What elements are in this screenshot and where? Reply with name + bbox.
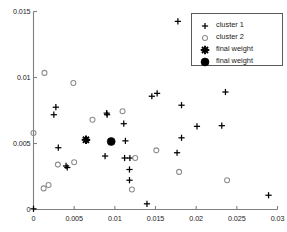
legend-label: final weight (216, 56, 253, 65)
x-tick-label: 0.01 (108, 214, 122, 223)
scatter-plot-figure: 00.0050.010.0150.020.0250.03 00.0050.010… (0, 0, 287, 232)
legend-item-2[interactable]: final weight (194, 42, 282, 54)
legend-item-1[interactable]: cluster 2 (194, 30, 282, 42)
legend-label: cluster 2 (216, 32, 244, 41)
x-tick-label: 0.005 (65, 214, 83, 223)
legend-item-3[interactable]: final weight (194, 54, 282, 66)
legend: cluster 1cluster 2final weightfinal weig… (191, 13, 283, 66)
x-tick-label: 0.015 (147, 214, 165, 223)
series-1-circle (31, 70, 230, 192)
x-tick-label: 0.025 (228, 214, 246, 223)
legend-marker-plus-icon (194, 18, 216, 30)
y-tick-label: 0.01 (17, 73, 31, 82)
legend-label: final weight (216, 44, 253, 53)
legend-marker-filled-circle-icon (194, 54, 216, 66)
legend-label: cluster 1 (216, 20, 244, 29)
y-tick-label: 0 (27, 205, 31, 214)
y-tick-label: 0.005 (13, 139, 31, 148)
x-tick-label: 0 (32, 214, 36, 223)
x-tick-label: 0.03 (271, 214, 285, 223)
x-tick-label: 0.02 (189, 214, 203, 223)
series-3-filled-circle (107, 138, 115, 146)
legend-item-0[interactable]: cluster 1 (194, 18, 282, 30)
legend-marker-circle-icon (194, 30, 216, 42)
legend-marker-star-icon (194, 42, 216, 54)
series-2-star (82, 136, 91, 145)
y-tick-label: 0.015 (13, 7, 31, 16)
